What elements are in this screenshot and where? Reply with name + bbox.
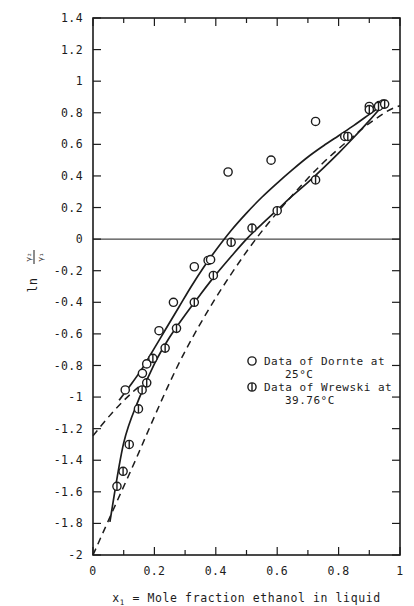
marker-circle — [224, 168, 232, 176]
x-tick-label: 0.6 — [266, 564, 288, 578]
data-point — [209, 271, 217, 279]
x-axis-label-text: = Mole fraction ethanol in liquid — [125, 591, 381, 605]
data-point — [138, 369, 146, 377]
x-tick-label: 0.4 — [205, 564, 227, 578]
plot-canvas: 1.41.210.80.60.40.20-0.2-0.4-0.6-0.8-1-1… — [0, 0, 414, 606]
data-point — [227, 238, 235, 246]
data-point — [311, 117, 319, 125]
data-point — [119, 467, 127, 475]
marker-circle — [311, 117, 319, 125]
y-tick-label: 0.2 — [61, 201, 83, 215]
marker-circle — [169, 298, 177, 306]
y-tick-label: 1.4 — [61, 11, 83, 25]
legend-label-line1: Data of Dornte at — [264, 355, 385, 368]
marker-circle — [206, 256, 214, 264]
y-tick-label: 0.4 — [61, 169, 83, 183]
y-tick-label: 0 — [76, 232, 83, 246]
marker-circle — [138, 369, 146, 377]
legend-label-line1: Data of Wrewski at — [264, 381, 392, 394]
y-tick-label: -0.4 — [54, 295, 83, 309]
x-tick-label: 0.8 — [328, 564, 350, 578]
data-point — [161, 344, 169, 352]
y-axis-label-denominator: γ₁ — [36, 252, 45, 261]
marker-circle — [121, 386, 129, 394]
data-point — [365, 106, 373, 114]
y-tick-label: -1.8 — [54, 516, 83, 530]
x-tick-label: 0.2 — [143, 564, 165, 578]
x-axis-title: x1 = Mole fraction ethanol in liquid — [112, 591, 380, 606]
x-tick-label: 0 — [89, 564, 96, 578]
y-tick-label: 0.6 — [61, 137, 83, 151]
y-tick-label: -0.8 — [54, 359, 83, 373]
y-axis-label-ln: ln — [26, 277, 40, 292]
y-axis-label-numerator: γ₂ — [24, 252, 33, 261]
legend-marker-circle — [248, 357, 256, 365]
data-point — [149, 354, 157, 362]
data-point — [267, 156, 275, 164]
marker-circle — [267, 156, 275, 164]
data-point — [143, 379, 151, 387]
y-tick-label: -2 — [68, 548, 83, 562]
y-tick-label: -1 — [68, 390, 83, 404]
data-point — [169, 298, 177, 306]
x-tick-label: 1 — [396, 564, 403, 578]
x-axis-label: x1 = Mole fraction ethanol in liquid — [112, 591, 380, 606]
y-tick-label: -1.2 — [54, 422, 83, 436]
y-tick-label: 0.8 — [61, 106, 83, 120]
legend-label-line2: 39.76°C — [285, 394, 335, 407]
data-point — [344, 132, 352, 140]
data-point — [125, 440, 133, 448]
data-point — [190, 298, 198, 306]
chart-svg: 1.41.210.80.60.40.20-0.2-0.4-0.6-0.8-1-1… — [0, 0, 414, 606]
y-tick-label: -0.2 — [54, 264, 83, 278]
x-axis-label-symbol: x — [112, 591, 120, 605]
y-tick-label: -0.6 — [54, 327, 83, 341]
ethanol-activity-coefficient-figure: 1.41.210.80.60.40.20-0.2-0.4-0.6-0.8-1-1… — [0, 0, 414, 606]
y-tick-label: -1.4 — [54, 453, 83, 467]
data-point — [121, 386, 129, 394]
data-point — [113, 482, 121, 490]
data-point — [273, 207, 281, 215]
legend-label-line2: 25°C — [285, 368, 314, 381]
data-point — [155, 327, 163, 335]
y-tick-label: -1.6 — [54, 485, 83, 499]
data-point — [206, 256, 214, 264]
data-point — [248, 224, 256, 232]
y-tick-label: 1 — [76, 74, 83, 88]
marker-circle — [155, 327, 163, 335]
marker-circle — [190, 263, 198, 271]
data-point — [224, 168, 232, 176]
data-point — [311, 176, 319, 184]
y-tick-label: 1.2 — [61, 43, 83, 57]
data-point — [381, 100, 389, 108]
data-point — [172, 324, 180, 332]
data-point — [190, 263, 198, 271]
data-point — [134, 405, 142, 413]
